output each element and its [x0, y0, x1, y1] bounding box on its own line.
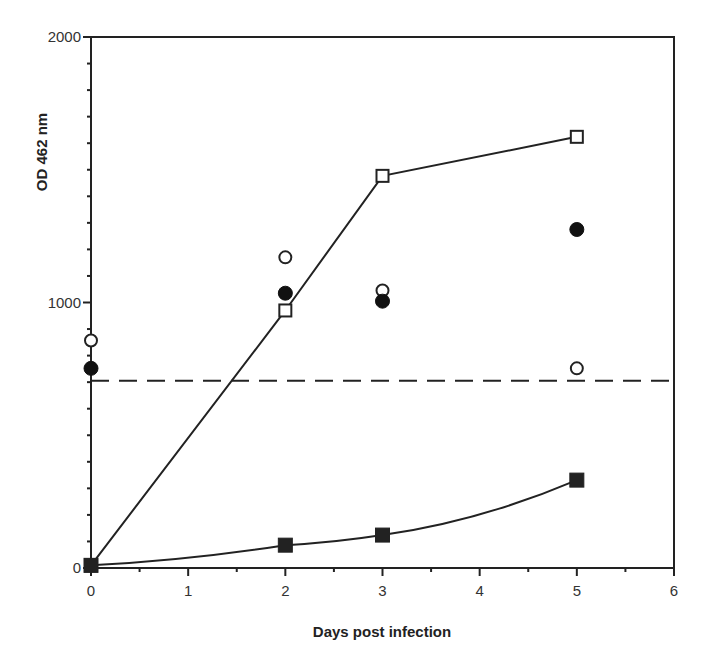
- filled-circle-marker: [84, 361, 98, 375]
- x-tick-label: 0: [87, 582, 95, 599]
- chart: 010002000 0123456 Days post infection OD…: [0, 0, 707, 664]
- filled-circle-marker: [278, 286, 292, 300]
- x-tick-label: 4: [475, 582, 483, 599]
- y-axis-ticks: 010002000: [48, 28, 91, 576]
- series-line: [91, 480, 577, 565]
- y-tick-label: 0: [73, 559, 81, 576]
- x-tick-label: 6: [670, 582, 678, 599]
- x-axis-title: Days post infection: [313, 623, 451, 640]
- y-tick-label: 1000: [48, 294, 81, 311]
- filled-circle-marker: [376, 294, 390, 308]
- x-axis-ticks: 0123456: [87, 568, 678, 599]
- x-tick-label: 5: [573, 582, 581, 599]
- y-axis-title: OD 462 nm: [33, 113, 50, 191]
- filled-circle-marker: [570, 222, 584, 236]
- open-circle-marker: [85, 334, 97, 346]
- filled-square-marker: [278, 538, 292, 552]
- series-line: [91, 137, 577, 566]
- open-circle-marker: [279, 251, 291, 263]
- filled-square-marker: [570, 473, 584, 487]
- filled-square-marker: [376, 528, 390, 542]
- open-circle-marker: [571, 362, 583, 374]
- open-square-marker: [279, 304, 291, 316]
- x-tick-label: 2: [281, 582, 289, 599]
- open-square-marker: [571, 131, 583, 143]
- y-tick-label: 2000: [48, 28, 81, 45]
- x-tick-label: 1: [184, 582, 192, 599]
- filled-square-marker: [84, 558, 98, 572]
- open-square-marker: [377, 170, 389, 182]
- series-lines: [91, 137, 577, 566]
- x-tick-label: 3: [378, 582, 386, 599]
